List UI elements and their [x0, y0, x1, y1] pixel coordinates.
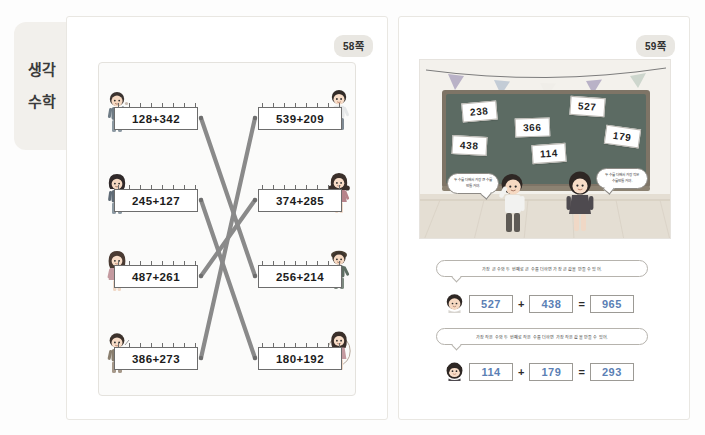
expr-text: 180+192: [276, 353, 324, 365]
number-card-527[interactable]: 527: [569, 96, 605, 117]
card-tick-strip: [118, 261, 196, 266]
avatar-girl-icon: [445, 362, 464, 381]
card-tick-strip: [118, 185, 196, 190]
task-1-plus-sign: +: [518, 298, 524, 310]
expr-card-left-1[interactable]: 128+342: [114, 107, 198, 130]
task-2-plus-sign: +: [518, 366, 524, 378]
expr-text: 128+342: [132, 113, 180, 125]
expr-card-right-2[interactable]: 374+285: [258, 189, 342, 212]
task-2-addend-b[interactable]: 179: [529, 363, 573, 381]
expr-card-left-2[interactable]: 245+127: [114, 189, 198, 212]
expr-text: 539+209: [276, 113, 324, 125]
speech-bubble-boy: 두 수를 더해서 가장 큰 수를 만들 거야.: [447, 173, 499, 194]
page-59: 59쪽: [398, 16, 690, 420]
task-1-addend-b[interactable]: 438: [529, 295, 573, 313]
section-tab-line1: 생각: [28, 60, 56, 80]
match-line-2: [201, 200, 255, 358]
number-card-438[interactable]: 438: [452, 135, 487, 156]
textbook-spread: 생각 수학 58쪽: [0, 0, 705, 435]
expr-card-left-3[interactable]: 487+261: [114, 265, 198, 288]
matching-exercise-panel: 128+342 245+127 487+261 386+273 539+209: [98, 62, 356, 396]
avatar-boy-icon: [445, 294, 464, 313]
card-tick-strip: [262, 185, 340, 190]
task-1-answer-row: 527 + 438 = 965: [445, 294, 634, 313]
number-card-238[interactable]: 238: [461, 101, 497, 123]
page-58: 58쪽: [66, 16, 388, 420]
card-tick-strip: [118, 103, 196, 108]
number-card-114[interactable]: 114: [531, 143, 566, 164]
expr-text: 245+127: [132, 195, 180, 207]
task-1-equals-sign: =: [578, 298, 584, 310]
expr-text: 256+214: [276, 271, 324, 283]
task-2-answer-row: 114 + 179 = 293: [445, 362, 634, 381]
expr-card-right-1[interactable]: 539+209: [258, 107, 342, 130]
expr-text: 487+261: [132, 271, 180, 283]
task-2-addend-a[interactable]: 114: [469, 363, 513, 381]
section-tab: 생각 수학: [14, 22, 70, 150]
task-2-equals-sign: =: [578, 366, 584, 378]
page-number-badge-58: 58쪽: [334, 35, 373, 57]
speech-bubble-girl: 두 수를 더해서 가장 작은 수를 만들 거야.: [596, 168, 648, 189]
page-number-badge-59: 59쪽: [636, 35, 675, 57]
card-tick-strip: [118, 343, 196, 348]
card-tick-strip: [262, 343, 340, 348]
expr-card-left-4[interactable]: 386+273: [114, 347, 198, 370]
task-1-addend-a[interactable]: 527: [469, 295, 513, 313]
expr-card-right-3[interactable]: 256+214: [258, 265, 342, 288]
task-2-sum[interactable]: 293: [590, 363, 634, 381]
match-line-1: [201, 118, 255, 276]
classroom-scene: 238 527 366 179 438 114 두 수를 더해서 가장 큰 수를…: [419, 59, 671, 239]
card-tick-strip: [262, 261, 340, 266]
expr-text: 374+285: [276, 195, 324, 207]
expr-card-right-4[interactable]: 180+192: [258, 347, 342, 370]
task-1-sum[interactable]: 965: [590, 295, 634, 313]
section-tab-line2: 수학: [28, 92, 56, 112]
expr-text: 386+273: [132, 353, 180, 365]
task-1-instruction: 가장 큰 수와 두 번째로 큰 수를 더하면 가장 큰 값을 만들 수 있어.: [436, 260, 648, 277]
task-2-instruction: 가장 작은 수와 두 번째로 작은 수를 더하면 가장 작은 값을 만들 수 있…: [436, 328, 648, 345]
match-line-4: [201, 118, 255, 358]
card-tick-strip: [262, 103, 340, 108]
number-card-366[interactable]: 366: [515, 117, 550, 137]
